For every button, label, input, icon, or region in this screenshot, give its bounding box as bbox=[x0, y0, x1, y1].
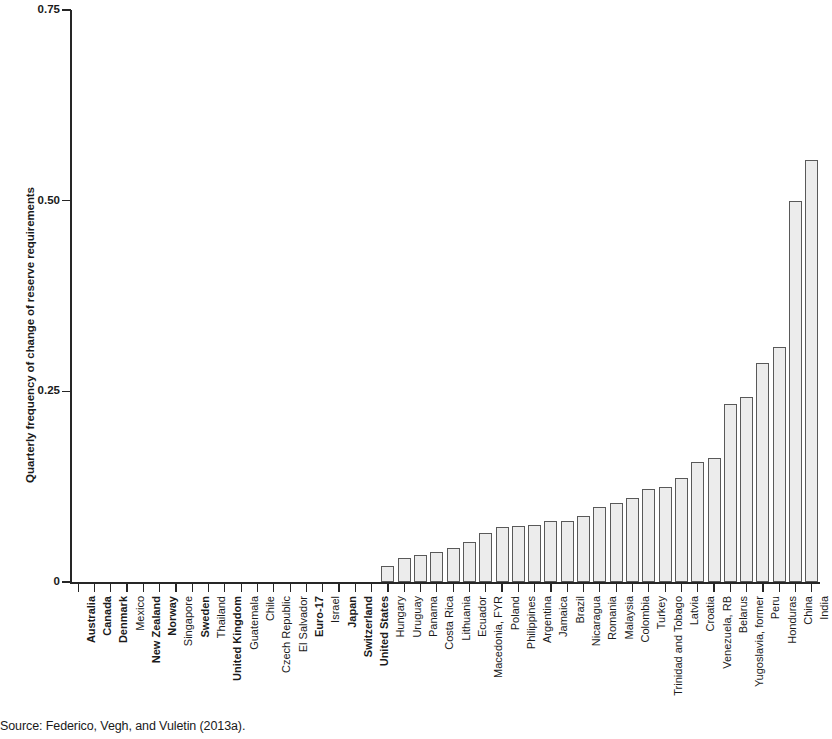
bar bbox=[675, 478, 688, 582]
x-axis-label: Sweden bbox=[198, 595, 213, 739]
x-axis-tick bbox=[192, 583, 193, 592]
bar bbox=[708, 458, 721, 582]
x-axis-tick bbox=[501, 583, 502, 592]
y-axis-title: Quarterly frequency of change of reserve… bbox=[20, 90, 40, 580]
x-axis-tick bbox=[78, 583, 79, 592]
bar bbox=[447, 548, 460, 582]
x-axis-tick bbox=[371, 583, 372, 592]
x-axis-tick bbox=[143, 583, 144, 592]
bar bbox=[430, 552, 443, 583]
bar bbox=[659, 487, 672, 582]
x-axis-tick bbox=[746, 583, 747, 592]
bar bbox=[773, 347, 786, 582]
x-axis-label: Peru bbox=[768, 595, 783, 739]
y-axis-tick-label: 0 bbox=[0, 576, 60, 588]
x-axis-label: Ecuador bbox=[475, 595, 490, 739]
x-axis-tick bbox=[159, 583, 160, 592]
x-axis-tick bbox=[795, 583, 796, 592]
x-axis-label: Chile bbox=[263, 595, 278, 739]
x-axis-tick bbox=[550, 583, 551, 592]
x-axis-label: Brazil bbox=[573, 595, 588, 739]
x-axis-tick bbox=[648, 583, 649, 592]
x-axis-label: Poland bbox=[508, 595, 523, 739]
x-axis-label: Panama bbox=[426, 595, 441, 739]
x-axis-label: Switzerland bbox=[361, 595, 376, 739]
x-axis-label: Costa Rica bbox=[442, 595, 457, 739]
x-axis-tick bbox=[126, 583, 127, 592]
x-axis-tick bbox=[257, 583, 258, 592]
x-axis-label: New Zealand bbox=[149, 595, 164, 739]
x-axis-label: United States bbox=[377, 595, 392, 739]
bar bbox=[789, 201, 802, 582]
x-axis-label: Denmark bbox=[116, 595, 131, 739]
x-axis-label: Trinidad and Tobago bbox=[671, 595, 686, 739]
bar bbox=[463, 542, 476, 582]
x-axis-tick bbox=[681, 583, 682, 592]
x-axis-label: Hungary bbox=[393, 595, 408, 739]
x-axis-tick bbox=[632, 583, 633, 592]
bar bbox=[805, 160, 818, 582]
x-axis-label: Singapore bbox=[181, 595, 196, 739]
plot-area bbox=[70, 10, 820, 582]
x-axis-label: Venezuela, RB bbox=[720, 595, 735, 739]
x-axis-tick bbox=[469, 583, 470, 592]
bar bbox=[691, 462, 704, 583]
x-axis-tick bbox=[241, 583, 242, 592]
x-axis-tick bbox=[436, 583, 437, 592]
x-axis-tick bbox=[599, 583, 600, 592]
x-axis-label: Euro-17 bbox=[312, 595, 327, 739]
x-axis-tick bbox=[224, 583, 225, 592]
x-axis-tick bbox=[811, 583, 812, 592]
source-note: Source: Federico, Vegh, and Vuletin (201… bbox=[0, 719, 245, 733]
bar bbox=[381, 566, 394, 582]
x-axis-label: Norway bbox=[165, 595, 180, 739]
x-axis-label: Philippines bbox=[524, 595, 539, 739]
bar bbox=[740, 397, 753, 582]
x-axis-tick bbox=[273, 583, 274, 592]
x-axis-label: Honduras bbox=[785, 595, 800, 739]
x-axis-label: Colombia bbox=[638, 595, 653, 739]
x-axis-label: Argentina bbox=[540, 595, 555, 739]
x-axis-tick bbox=[762, 583, 763, 592]
x-axis-tick bbox=[404, 583, 405, 592]
y-axis-tick-label: 0.50 bbox=[0, 195, 60, 207]
x-axis-label: Nicaragua bbox=[589, 595, 604, 739]
y-axis-tick-label: 0.75 bbox=[0, 4, 60, 16]
x-axis-label: United Kingdom bbox=[230, 595, 245, 739]
x-axis-tick bbox=[420, 583, 421, 592]
x-axis-label: Israel bbox=[328, 595, 343, 739]
bar bbox=[626, 498, 639, 582]
x-axis-tick bbox=[355, 583, 356, 592]
x-axis-tick bbox=[616, 583, 617, 592]
x-axis-label: Romania bbox=[605, 595, 620, 739]
x-axis-label: Jamaica bbox=[556, 595, 571, 739]
x-axis-label: Australia bbox=[84, 595, 99, 739]
x-axis-label: China bbox=[801, 595, 816, 739]
x-axis-line bbox=[70, 582, 820, 584]
x-axis-label: Guatemala bbox=[247, 595, 262, 739]
x-axis-tick bbox=[175, 583, 176, 592]
bar bbox=[577, 516, 590, 582]
x-axis-label: Canada bbox=[100, 595, 115, 739]
bar bbox=[398, 558, 411, 582]
x-axis-tick bbox=[534, 583, 535, 592]
x-axis-tick bbox=[779, 583, 780, 592]
x-axis-label: Latvia bbox=[687, 595, 702, 739]
x-axis-tick bbox=[485, 583, 486, 592]
x-axis-label: Belarus bbox=[736, 595, 751, 739]
x-axis-tick bbox=[387, 583, 388, 592]
bar bbox=[414, 555, 427, 582]
x-axis-tick bbox=[338, 583, 339, 592]
x-axis-label: Yugoslavia, former bbox=[752, 595, 767, 739]
x-axis-tick bbox=[518, 583, 519, 592]
bar bbox=[610, 503, 623, 582]
bar bbox=[496, 527, 509, 582]
x-axis-tick bbox=[453, 583, 454, 592]
x-axis-tick bbox=[290, 583, 291, 592]
bar bbox=[724, 404, 737, 582]
bar bbox=[593, 507, 606, 582]
x-axis-tick bbox=[697, 583, 698, 592]
bar bbox=[642, 489, 655, 582]
x-axis-label: Malaysia bbox=[622, 595, 637, 739]
